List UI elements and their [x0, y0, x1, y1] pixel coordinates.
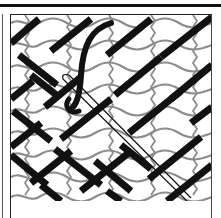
top-rule: [0, 4, 221, 7]
stitch-illustration: [11, 15, 212, 201]
caption-area: [11, 201, 212, 218]
left-margin-rule: [2, 14, 3, 218]
figure-frame: [10, 14, 212, 218]
